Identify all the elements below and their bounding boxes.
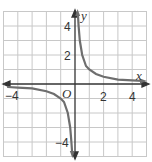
y-tick-2: 2 [64, 49, 71, 63]
x-axis [3, 81, 149, 87]
y-tick-4: 4 [64, 20, 71, 34]
y-axis-label: y [79, 8, 87, 23]
origin-label: O [62, 86, 72, 101]
y-tick-neg4: −4 [55, 136, 69, 150]
x-tick-neg4: −4 [5, 89, 19, 103]
x-axis-label: x [135, 68, 142, 83]
curve-branch-right [78, 14, 143, 81]
x-tick-4: 4 [129, 90, 136, 104]
hyperbola-graph: y x O −4 2 4 4 2 −4 [0, 0, 152, 162]
x-tick-2: 2 [100, 90, 107, 104]
